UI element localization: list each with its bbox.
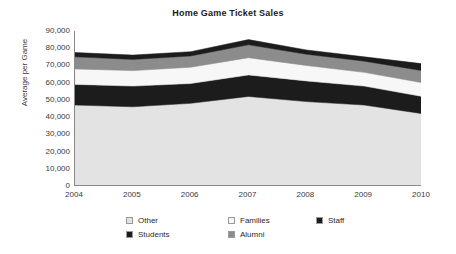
plot-svg bbox=[75, 31, 421, 186]
chart-legend: OtherFamiliesStaffStudentsAlumni bbox=[126, 216, 366, 246]
legend-item-label: Alumni bbox=[240, 230, 264, 239]
legend-item-alumni[interactable]: Alumni bbox=[228, 230, 264, 239]
x-axis-tick-label: 2010 bbox=[412, 190, 430, 199]
legend-swatch-icon bbox=[126, 217, 133, 224]
x-axis-tick-labels: 2004200520062007200820092010 bbox=[74, 190, 421, 204]
legend-item-label: Other bbox=[138, 216, 158, 225]
legend-item-students[interactable]: Students bbox=[126, 230, 170, 239]
y-axis-tick-label: 90,000 bbox=[24, 27, 70, 35]
legend-item-label: Staff bbox=[328, 216, 344, 225]
legend-item-families[interactable]: Families bbox=[228, 216, 270, 225]
area-series-other bbox=[75, 96, 421, 186]
y-axis-tick-label: 50,000 bbox=[24, 96, 70, 104]
legend-swatch-icon bbox=[126, 231, 133, 238]
legend-item-staff[interactable]: Staff bbox=[316, 216, 344, 225]
y-axis-tick-labels: 010,00020,00030,00040,00050,00060,00070,… bbox=[22, 0, 70, 254]
legend-swatch-icon bbox=[228, 231, 235, 238]
y-axis-tick-label: 70,000 bbox=[24, 61, 70, 69]
stacked-area-chart: Home Game Ticket Sales Average per Game … bbox=[0, 0, 456, 254]
legend-swatch-icon bbox=[228, 217, 235, 224]
y-axis-tick-label: 10,000 bbox=[24, 165, 70, 173]
x-axis-tick-label: 2007 bbox=[239, 190, 257, 199]
legend-item-other[interactable]: Other bbox=[126, 216, 158, 225]
legend-item-label: Families bbox=[240, 216, 270, 225]
legend-item-label: Students bbox=[138, 230, 170, 239]
x-axis-tick-label: 2006 bbox=[181, 190, 199, 199]
y-axis-tick-label: 30,000 bbox=[24, 130, 70, 138]
y-axis-tick-label: 0 bbox=[24, 182, 70, 190]
x-axis-tick-label: 2008 bbox=[296, 190, 314, 199]
legend-swatch-icon bbox=[316, 217, 323, 224]
x-axis-tick-label: 2005 bbox=[123, 190, 141, 199]
plot-area bbox=[74, 31, 421, 186]
y-axis-tick-label: 20,000 bbox=[24, 148, 70, 156]
y-axis-tick-label: 40,000 bbox=[24, 113, 70, 121]
x-axis-tick-label: 2009 bbox=[354, 190, 372, 199]
y-axis-tick-label: 80,000 bbox=[24, 44, 70, 52]
x-axis-tick-label: 2004 bbox=[65, 190, 83, 199]
y-axis-tick-label: 60,000 bbox=[24, 79, 70, 87]
